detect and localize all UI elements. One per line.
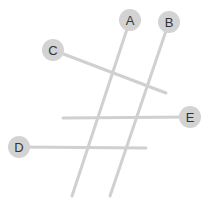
- nodes-layer: A B C D E: [8, 9, 201, 158]
- line-segment-b[interactable]: [110, 22, 169, 196]
- line-segment-d[interactable]: [19, 147, 146, 148]
- node-e[interactable]: E: [179, 106, 201, 128]
- node-label-d: D: [14, 140, 23, 155]
- node-c[interactable]: C: [42, 39, 64, 61]
- node-label-a: A: [126, 13, 135, 28]
- node-label-b: B: [165, 15, 174, 30]
- node-label-e: E: [186, 110, 195, 125]
- line-segment-e[interactable]: [63, 117, 190, 118]
- node-d[interactable]: D: [8, 136, 30, 158]
- node-label-c: C: [48, 43, 57, 58]
- diagram-canvas: A B C D E: [0, 0, 206, 202]
- line-segment-a[interactable]: [72, 20, 130, 196]
- line-diagram: A B C D E: [0, 0, 206, 202]
- node-a[interactable]: A: [119, 9, 141, 31]
- node-b[interactable]: B: [158, 11, 180, 33]
